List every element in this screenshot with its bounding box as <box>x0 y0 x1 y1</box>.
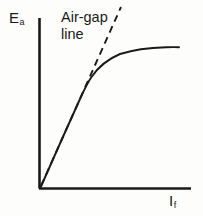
saturation-curve <box>41 47 180 187</box>
x-axis-label: If <box>169 193 176 208</box>
y-axis-label: Ea <box>9 10 24 25</box>
chart-figure: Ea If Air-gap line <box>0 0 203 216</box>
air-gap-annotation-line-1: Air-gap <box>61 9 108 26</box>
air-gap-line-annotation: Air-gap line <box>61 9 108 42</box>
y-axis-label-subscript: a <box>20 17 25 27</box>
x-axis-label-subscript: f <box>174 200 177 210</box>
air-gap-annotation-line-2: line <box>61 26 108 43</box>
x-axis-label-text: I <box>169 192 173 209</box>
y-axis-label-text: E <box>9 9 19 26</box>
